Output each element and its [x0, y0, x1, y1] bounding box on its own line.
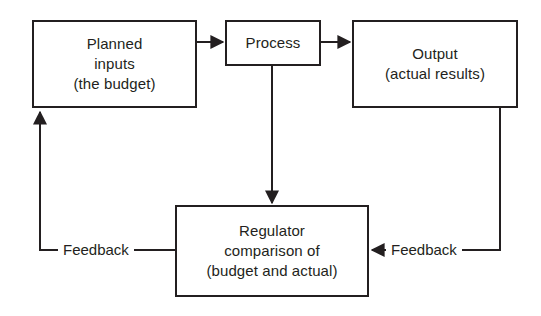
connector-regulator-to-planned-inputs-feedback — [40, 112, 175, 250]
node-output: Output (actual results) — [352, 20, 518, 108]
feedback-loop-diagram: Planned inputs (the budget) Process Outp… — [0, 0, 541, 316]
connector-output-to-regulator-feedback — [372, 108, 500, 250]
node-planned-inputs: Planned inputs (the budget) — [32, 20, 197, 108]
node-regulator: Regulator comparison of (budget and actu… — [175, 205, 369, 297]
node-regulator-line-1: Regulator — [239, 221, 305, 241]
node-regulator-line-2: comparison of — [224, 241, 320, 261]
node-planned-inputs-line-2: inputs — [94, 54, 135, 74]
node-output-line-2: (actual results) — [385, 64, 485, 84]
edge-label-feedback-left: Feedback — [58, 241, 134, 258]
node-planned-inputs-line-3: (the budget) — [73, 74, 155, 94]
node-regulator-line-3: (budget and actual) — [206, 261, 337, 281]
node-process: Process — [225, 20, 321, 66]
node-process-line-1: Process — [246, 33, 301, 53]
node-planned-inputs-line-1: Planned — [87, 34, 143, 54]
edge-label-feedback-right: Feedback — [386, 241, 462, 258]
node-output-line-1: Output — [412, 44, 458, 64]
